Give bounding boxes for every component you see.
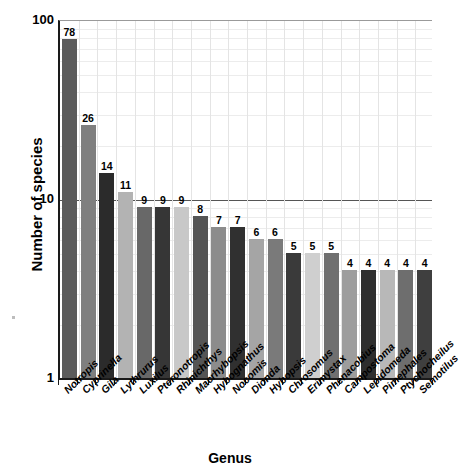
bar[interactable] [155,207,170,378]
bar-value-label: 7 [225,215,249,226]
bar-value-label: 4 [412,258,436,269]
bar[interactable] [62,39,77,378]
bar-value-label: 14 [95,161,119,172]
bar[interactable] [118,192,133,378]
bar[interactable] [99,173,114,378]
bar[interactable] [268,239,283,378]
bar[interactable] [174,207,189,378]
bar-value-label: 11 [113,180,137,191]
bar-value-label: 26 [76,113,100,124]
x-axis-title: Genus [0,450,460,466]
bar[interactable] [137,207,152,378]
bar-chart-figure: Number of species 110100 782614119998776… [0,0,460,476]
stray-mark [12,316,15,319]
y-axis-tick-label: 100 [18,13,54,26]
plot-area: 782614119998776655544444 [58,20,432,378]
bar[interactable] [81,125,96,378]
y-axis-tick-label: 10 [18,192,54,205]
bar-value-label: 6 [263,227,287,238]
bars-container: 782614119998776655544444 [60,21,432,378]
y-axis-tick-labels: 110100 [14,0,54,476]
bar-value-label: 8 [188,204,212,215]
bar-value-label: 78 [57,27,81,38]
y-axis-tick-label: 1 [18,371,54,384]
bar-value-label: 5 [319,241,343,252]
